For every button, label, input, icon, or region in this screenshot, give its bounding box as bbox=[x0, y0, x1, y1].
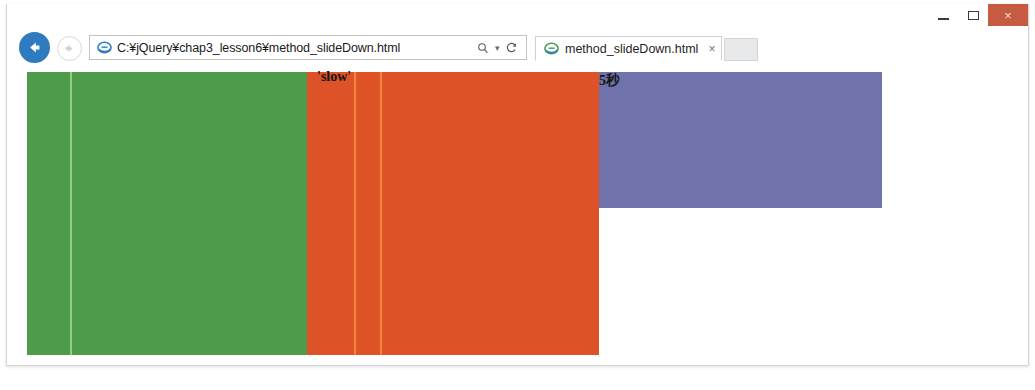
navigation-bar: C:¥jQuery¥chap3_lesson6¥method_slideDown… bbox=[7, 30, 1028, 66]
tab-method-slidedown[interactable]: method_slideDown.html × bbox=[535, 36, 722, 61]
new-tab-button[interactable] bbox=[724, 38, 758, 61]
green-panel bbox=[27, 72, 307, 355]
address-text: C:¥jQuery¥chap3_lesson6¥method_slideDown… bbox=[117, 41, 474, 55]
internet-explorer-icon bbox=[96, 40, 112, 56]
forward-arrow-icon bbox=[63, 42, 76, 55]
seconds-label: 5秒 bbox=[599, 69, 620, 89]
tab-close-icon[interactable]: × bbox=[708, 43, 715, 55]
chevron-down-icon[interactable]: ▾ bbox=[492, 43, 502, 53]
minimize-button[interactable] bbox=[928, 4, 958, 26]
close-icon: × bbox=[1004, 9, 1012, 22]
tab-title: method_slideDown.html bbox=[565, 42, 698, 56]
browser-window: × C:¥jQuery¥chap3_lesson6¥method_slideDo bbox=[6, 4, 1029, 366]
maximize-button[interactable] bbox=[958, 4, 988, 26]
address-bar[interactable]: C:¥jQuery¥chap3_lesson6¥method_slideDown… bbox=[89, 35, 527, 60]
orange-panel-divider-1 bbox=[354, 72, 356, 355]
refresh-icon[interactable] bbox=[502, 41, 520, 54]
purple-panel bbox=[599, 72, 882, 208]
page-content: 'slow' 5秒 bbox=[7, 66, 1028, 365]
close-window-button[interactable]: × bbox=[988, 4, 1028, 26]
internet-explorer-icon bbox=[543, 41, 559, 57]
orange-panel bbox=[307, 72, 599, 355]
orange-panel-divider-2 bbox=[380, 72, 382, 355]
minimize-icon bbox=[938, 18, 949, 20]
forward-button[interactable] bbox=[57, 36, 82, 61]
search-icon[interactable] bbox=[474, 42, 492, 54]
back-arrow-icon bbox=[26, 39, 43, 56]
back-button[interactable] bbox=[19, 32, 50, 63]
green-panel-divider bbox=[70, 72, 72, 355]
tab-strip: method_slideDown.html × bbox=[535, 35, 758, 61]
maximize-icon bbox=[968, 11, 979, 20]
slow-label: 'slow' bbox=[317, 69, 351, 85]
